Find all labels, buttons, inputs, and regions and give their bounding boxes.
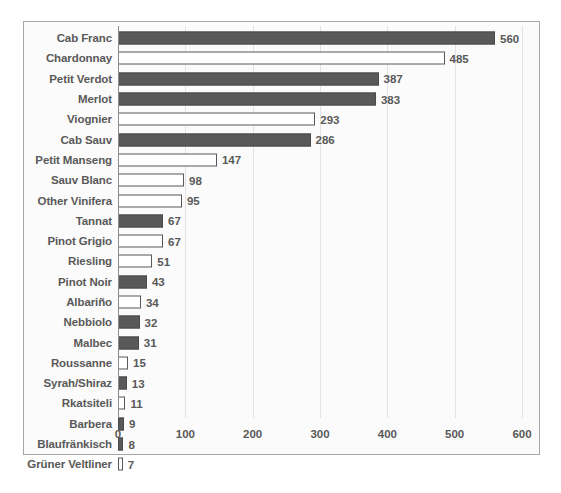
x-tick-label: 500 (445, 428, 464, 440)
x-tick-label: 400 (378, 428, 397, 440)
x-tick-label: 0 (115, 428, 121, 440)
category-label: Roussanne (51, 357, 112, 369)
bar-row: Petit Manseng147 (24, 150, 539, 170)
bar (118, 32, 495, 45)
bar-row: Viognier293 (24, 109, 539, 129)
bar-row: Riesling51 (24, 251, 539, 271)
category-label: Malbec (74, 337, 112, 349)
x-tick-label: 300 (310, 428, 329, 440)
bar-value-label: 13 (127, 377, 145, 389)
bar (118, 174, 184, 187)
category-label: Other Vinifera (38, 195, 112, 207)
bar (118, 235, 163, 248)
bar (118, 275, 147, 288)
bar (118, 296, 141, 309)
bar-series: Cab Franc560Chardonnay485Petit Verdot387… (24, 28, 539, 475)
bar-row: Syrah/Shiraz13 (24, 373, 539, 393)
bar-row: Merlot383 (24, 89, 539, 109)
bar-row: Chardonnay485 (24, 48, 539, 68)
axis-zero-line (118, 26, 119, 418)
bar-row: Pinot Noir43 (24, 272, 539, 292)
bar (118, 377, 127, 390)
category-label: Tannat (76, 215, 112, 227)
bar-row: Nebbiolo32 (24, 312, 539, 332)
bar-value-label: 43 (147, 276, 165, 288)
bar-row: Cab Sauv286 (24, 129, 539, 149)
bar-row: Other Vinifera95 (24, 190, 539, 210)
bar-value-label: 560 (495, 32, 519, 44)
bar (118, 153, 217, 166)
category-label: Syrah/Shiraz (44, 377, 112, 389)
bar (118, 397, 125, 410)
category-label: Pinot Grigio (47, 235, 112, 247)
bar-row: Sauv Blanc98 (24, 170, 539, 190)
bar (118, 93, 376, 106)
category-label: Petit Manseng (35, 154, 112, 166)
bar-value-label: 51 (152, 255, 170, 267)
category-label: Viognier (67, 113, 112, 125)
bar-row: Pinot Grigio67 (24, 231, 539, 251)
category-label: Nebbiolo (64, 316, 112, 328)
plot-area: Cab Franc560Chardonnay485Petit Verdot387… (24, 22, 539, 454)
x-tick-label: 200 (243, 428, 262, 440)
category-label: Petit Verdot (49, 73, 112, 85)
category-label: Grüner Veltliner (27, 458, 112, 470)
bar (118, 214, 163, 227)
bar-value-label: 485 (445, 52, 469, 64)
bar-row: Albariño34 (24, 292, 539, 312)
bar-value-label: 67 (163, 235, 181, 247)
bar (118, 316, 140, 329)
bar-row: Petit Verdot387 (24, 69, 539, 89)
bar-value-label: 67 (163, 215, 181, 227)
bar (118, 133, 311, 146)
bar (118, 113, 315, 126)
bar-value-label: 31 (139, 337, 157, 349)
bar-value-label: 286 (311, 134, 335, 146)
x-tick-label: 600 (512, 428, 531, 440)
bar-value-label: 383 (376, 93, 400, 105)
bar-value-label: 32 (140, 316, 158, 328)
bar (118, 52, 445, 65)
category-label: Riesling (68, 255, 112, 267)
bar-row: Grüner Veltliner7 (24, 454, 539, 474)
category-label: Albariño (66, 296, 112, 308)
bar-row: Cab Franc560 (24, 28, 539, 48)
bar-value-label: 293 (315, 113, 339, 125)
bar-row: Malbec31 (24, 332, 539, 352)
bar-row: Rkatsiteli11 (24, 393, 539, 413)
bar (118, 194, 182, 207)
x-tick-label: 100 (176, 428, 195, 440)
category-label: Sauv Blanc (51, 174, 112, 186)
bar-value-label: 7 (123, 458, 134, 470)
bar-value-label: 95 (182, 195, 200, 207)
bar (118, 336, 139, 349)
category-label: Rkatsiteli (62, 397, 112, 409)
bar (118, 72, 379, 85)
bar-value-label: 387 (379, 73, 403, 85)
bar-value-label: 147 (217, 154, 241, 166)
bar (118, 356, 128, 369)
category-label: Cab Sauv (60, 134, 112, 146)
bar-row: Tannat67 (24, 211, 539, 231)
bar (118, 255, 152, 268)
category-label: Chardonnay (46, 52, 112, 64)
bar-value-label: 11 (125, 397, 142, 409)
category-label: Cab Franc (57, 32, 112, 44)
bar-value-label: 34 (141, 296, 159, 308)
bar-value-label: 15 (128, 357, 146, 369)
bar-chart: Cab Franc560Chardonnay485Petit Verdot387… (23, 21, 540, 455)
x-axis-tick-labels: 0100200300400500600 (24, 428, 539, 446)
bar-row: Roussanne15 (24, 353, 539, 373)
category-label: Merlot (78, 93, 112, 105)
category-label: Pinot Noir (58, 276, 112, 288)
bar-value-label: 98 (184, 174, 202, 186)
